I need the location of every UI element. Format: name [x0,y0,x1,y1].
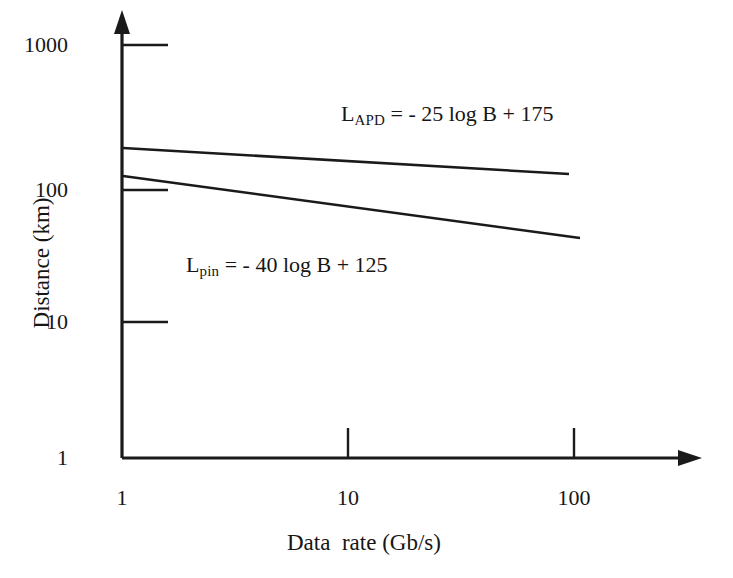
y-tick-label-1: 1 [0,447,68,469]
y-axis-arrowhead [114,10,130,34]
annotation-pin-subscript: pin [199,263,219,279]
annotation-pin-symbol: L [186,252,199,277]
annotation-apd-body: = - 25 log B + 175 [385,101,553,126]
y-axis-title-wrapper: Distance (km) [29,123,59,403]
y-axis-title: Distance (km) [29,198,54,329]
annotation-apd-equation: LAPD = - 25 log B + 175 [341,101,553,129]
x-tick-label-1: 1 [82,487,162,509]
series-line-apd [123,148,569,174]
x-axis-title: Data rate (Gb/s) [287,531,441,554]
x-tick-label-100: 100 [534,487,614,509]
annotation-apd-subscript: APD [354,112,385,128]
y-tick-label-1000: 1000 [0,34,68,56]
series-line-pin [123,176,580,238]
annotation-pin-body: = - 40 log B + 125 [219,252,387,277]
annotation-pin-equation: Lpin = - 40 log B + 125 [186,252,388,280]
chart-figure: 1000 100 10 1 1 10 100 Distance (km) Dat… [0,0,733,578]
x-axis-arrowhead [678,450,702,466]
x-tick-label-10: 10 [308,487,388,509]
annotation-apd-symbol: L [341,101,354,126]
